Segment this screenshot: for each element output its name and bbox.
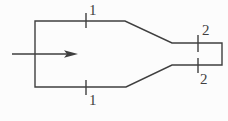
duct-flow-diagram: 1 1 2 2 xyxy=(0,0,228,121)
diagram-background xyxy=(0,0,228,121)
diagram-canvas: 1 1 2 2 xyxy=(0,0,228,121)
section-2-top-label: 2 xyxy=(202,22,210,38)
section-2-bottom-label: 2 xyxy=(200,71,208,87)
section-1-bottom-label: 1 xyxy=(89,92,97,108)
section-1-top-label: 1 xyxy=(89,2,97,18)
